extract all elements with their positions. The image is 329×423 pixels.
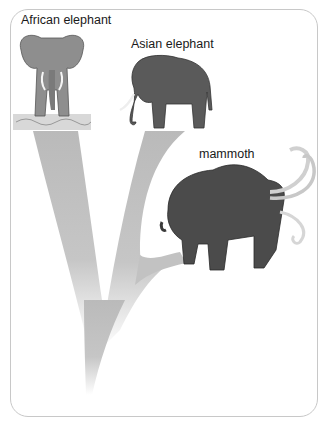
label-asian-elephant: Asian elephant	[131, 37, 214, 51]
label-african-elephant: African elephant	[21, 13, 111, 27]
asian-elephant-illustration	[116, 52, 216, 132]
african-elephant-illustration	[13, 30, 91, 132]
mammoth-illustration	[158, 140, 318, 275]
